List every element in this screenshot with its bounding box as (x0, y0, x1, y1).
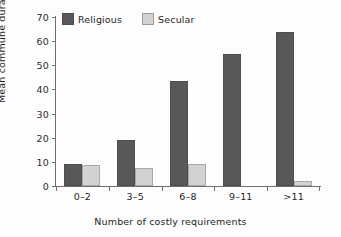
x-axis-tick (56, 186, 57, 191)
y-axis-tick-label: 60 (37, 36, 50, 47)
x-axis-line (55, 186, 321, 187)
y-axis-tick-label: 30 (37, 108, 50, 119)
y-axis-tick-label: 20 (37, 132, 50, 143)
x-axis-title: Number of costly requirements (0, 216, 341, 227)
y-axis-tick (52, 41, 56, 42)
y-axis-title: Mean commune duration (years) (0, 0, 7, 103)
x-axis-category-label: >11 (283, 191, 304, 202)
x-axis-category-label: 0–2 (74, 191, 91, 202)
x-axis-tick (162, 186, 163, 191)
y-axis-tick (52, 17, 56, 18)
y-axis-tick (52, 114, 56, 115)
y-axis-tick-label: 50 (37, 60, 50, 71)
bar-religious-2 (170, 81, 188, 187)
bar-religious-0 (64, 164, 82, 186)
bar-religious-4 (276, 32, 294, 187)
x-axis-tick (267, 186, 268, 191)
y-axis-tick-label: 70 (37, 12, 50, 23)
y-axis-tick-label: 10 (37, 156, 50, 167)
x-axis-category-label: 6–8 (179, 191, 196, 202)
y-axis-tick (52, 65, 56, 66)
y-axis-tick (52, 162, 56, 163)
x-axis-tick (109, 186, 110, 191)
x-axis-tick (214, 186, 215, 191)
bar-secular-2 (188, 164, 206, 186)
plot-area: 010203040506070 (56, 17, 320, 186)
bar-religious-3 (223, 54, 241, 186)
x-axis-tick (319, 186, 320, 191)
x-axis-category-label: 9–11 (229, 191, 252, 202)
y-axis-tick-label: 0 (43, 181, 49, 192)
bar-secular-4 (294, 181, 312, 186)
bar-secular-1 (135, 168, 153, 186)
bar-chart-figure: Religious Secular Mean commune duration … (0, 0, 341, 237)
x-axis-category-label: 3–5 (127, 191, 144, 202)
y-axis-tick (52, 138, 56, 139)
y-axis-tick-label: 40 (37, 84, 50, 95)
bar-religious-1 (117, 140, 135, 186)
bar-secular-0 (82, 165, 100, 186)
y-axis-tick (52, 89, 56, 90)
